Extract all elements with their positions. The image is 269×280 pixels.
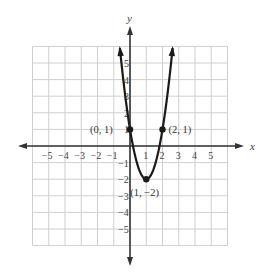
y-tick-label: −3: [118, 191, 129, 202]
curve-arrow-icon: [169, 46, 175, 56]
y-tick-label: 5: [124, 58, 129, 69]
x-axis-label: x: [249, 140, 255, 152]
x-axis-left-arrow-icon: [18, 143, 27, 149]
graph: xy −5−4−3−2−112345−5−4−3−2−112345 (0, 1)…: [0, 0, 269, 280]
x-tick-label: 5: [208, 150, 213, 161]
x-tick-label: −4: [58, 150, 69, 161]
y-axis-down-arrow-icon: [127, 257, 133, 266]
point-label: (1, −2): [130, 187, 159, 199]
x-tick-label: 4: [192, 150, 197, 161]
x-tick-label: 3: [176, 150, 181, 161]
x-tick-label: −2: [91, 150, 102, 161]
axes: xy: [18, 12, 255, 266]
x-tick-label: −3: [74, 150, 85, 161]
x-axis-right-arrow-icon: [235, 143, 244, 149]
x-tick-label: −1: [107, 150, 118, 161]
y-tick-label: −1: [118, 158, 129, 169]
y-axis-up-arrow-icon: [127, 26, 133, 35]
curve-arrow-icon: [117, 46, 123, 56]
y-tick-label: −2: [118, 174, 129, 185]
point-label: (0, 1): [90, 124, 113, 136]
y-tick-label: −4: [118, 207, 129, 218]
point-marker: [159, 126, 165, 132]
point-marker: [127, 126, 133, 132]
y-axis-label: y: [126, 12, 132, 24]
point-marker: [143, 176, 149, 182]
labeled-points: (0, 1)(2, 1)(1, −2): [90, 124, 192, 199]
x-tick-label: −5: [42, 150, 53, 161]
x-tick-label: 1: [143, 150, 148, 161]
y-tick-label: −5: [118, 224, 129, 235]
point-label: (2, 1): [169, 124, 192, 136]
x-tick-label: 2: [160, 150, 165, 161]
